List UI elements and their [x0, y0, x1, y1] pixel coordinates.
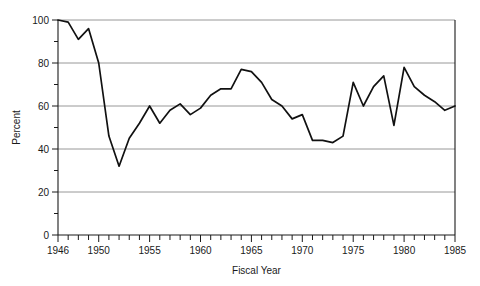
y-tick-label: 80	[38, 58, 50, 69]
x-axis-ticks	[58, 235, 455, 242]
x-tick-label: 1950	[88, 245, 111, 256]
chart-figure: 020406080100 194619501955196019651970197…	[0, 0, 480, 286]
y-tick-label: 100	[32, 15, 49, 26]
gridlines-group	[58, 20, 455, 192]
x-axis-title: Fiscal Year	[232, 265, 282, 276]
data-series-line	[58, 20, 455, 166]
x-tick-label: 1965	[240, 245, 263, 256]
y-tick-label: 60	[38, 101, 50, 112]
x-tick-label: 1970	[291, 245, 314, 256]
y-tick-label: 0	[43, 230, 49, 241]
y-tick-label: 20	[38, 187, 50, 198]
y-axis-minor-ticks	[54, 42, 58, 214]
x-tick-label: 1985	[444, 245, 467, 256]
x-axis-tick-labels: 194619501955196019651970197519801985	[47, 245, 467, 256]
line-chart: 020406080100 194619501955196019651970197…	[0, 0, 480, 286]
x-tick-label: 1975	[342, 245, 365, 256]
y-axis-tick-labels: 020406080100	[32, 15, 49, 241]
y-tick-label: 40	[38, 144, 50, 155]
x-tick-label: 1960	[189, 245, 212, 256]
x-tick-label: 1955	[138, 245, 161, 256]
y-axis-title: Percent	[11, 110, 22, 145]
x-tick-label: 1946	[47, 245, 70, 256]
x-tick-label: 1980	[393, 245, 416, 256]
